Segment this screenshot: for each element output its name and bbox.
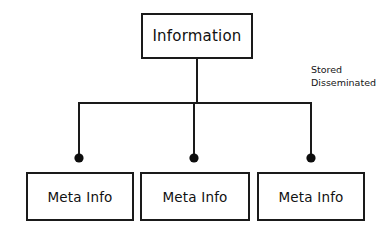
annotation-line-disseminated: Disseminated <box>311 77 376 90</box>
node-information-label: Information <box>152 27 241 45</box>
diagram-canvas: Information Stored Disseminated Meta Inf… <box>0 0 392 230</box>
endpoint-dot-right <box>306 153 315 162</box>
node-meta-info-3-label: Meta Info <box>278 189 343 205</box>
annotation-line-stored: Stored <box>311 64 376 77</box>
node-meta-info-2-label: Meta Info <box>162 189 227 205</box>
annotation-stored-disseminated: Stored Disseminated <box>311 64 376 89</box>
node-meta-info-1-label: Meta Info <box>47 189 112 205</box>
endpoint-dot-middle <box>189 153 198 162</box>
node-meta-info-1[interactable]: Meta Info <box>26 172 134 221</box>
endpoint-dot-left <box>74 153 83 162</box>
node-meta-info-3[interactable]: Meta Info <box>257 172 365 221</box>
node-information[interactable]: Information <box>141 13 253 59</box>
node-meta-info-2[interactable]: Meta Info <box>140 172 250 221</box>
